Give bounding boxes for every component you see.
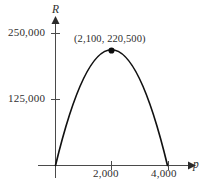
y-axis-tick-label-lower: 125,000 xyxy=(8,93,45,104)
y-axis-name-label: R xyxy=(52,3,59,15)
x-axis-name-label: p xyxy=(193,158,199,170)
revenue-parabola-figure: 250,000 125,000 2,000 4,000 R p (2,100, … xyxy=(0,0,204,183)
y-axis-tick-label-upper: 250,000 xyxy=(8,27,45,38)
vertex-annotation-label: (2,100, 220,500) xyxy=(74,33,146,44)
y-axis-arrow-icon xyxy=(52,16,60,24)
revenue-curve xyxy=(56,50,168,166)
x-axis-tick-label-left: 2,000 xyxy=(93,168,119,179)
vertex-point-marker xyxy=(108,47,114,53)
x-axis-tick-label-right: 4,000 xyxy=(151,168,177,179)
